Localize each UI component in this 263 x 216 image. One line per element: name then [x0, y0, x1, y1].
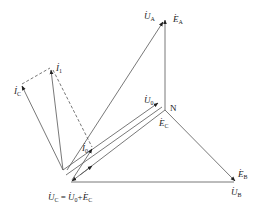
phasor-E-B — [165, 110, 235, 181]
label-U-0: U0 — [144, 96, 154, 106]
phasor-U-0-small — [80, 166, 92, 175]
label-U-A: UA — [144, 12, 155, 22]
equation-U-C: UC = U0+EC — [48, 193, 92, 203]
phasor-I-C — [22, 86, 63, 170]
label-E-C: EC — [159, 119, 169, 129]
label-U-B: UB — [231, 188, 242, 198]
label-E-B: EB — [238, 170, 248, 180]
label-I-1: I1 — [56, 64, 62, 74]
phasor-diagram — [0, 0, 263, 216]
label-N: N — [170, 104, 177, 113]
phasor-I-1 — [51, 70, 63, 170]
label-I-C: IC — [14, 87, 21, 97]
label-E-A: EA — [173, 15, 183, 25]
dashed-IC-I1 — [22, 68, 50, 84]
phasor-parallel — [66, 107, 162, 175]
label-I-0: I0 — [82, 144, 88, 154]
phasor-U-0 — [63, 103, 158, 170]
